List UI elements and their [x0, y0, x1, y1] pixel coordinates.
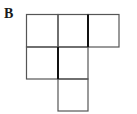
square-middle-left	[27, 47, 59, 79]
square-top-right	[88, 15, 119, 48]
square-top-left	[27, 15, 59, 48]
square-net-diagram	[0, 0, 137, 114]
square-middle-center	[58, 47, 88, 79]
square-top-middle	[58, 15, 88, 48]
square-bottom-center	[58, 79, 88, 111]
